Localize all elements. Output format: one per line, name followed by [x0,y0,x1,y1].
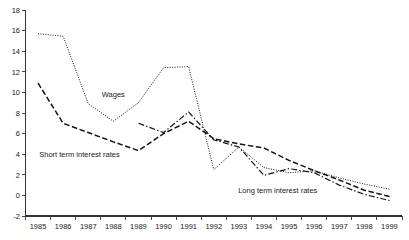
x-tick-label: 1986 [55,222,72,231]
x-tick-label: 1993 [231,222,248,231]
series-annotation: Wages [102,90,125,99]
x-tick-label: 1998 [356,222,373,231]
x-tick-label: 1989 [130,222,147,231]
x-tick-label: 1985 [30,222,47,231]
y-tick-label: -2 [13,212,20,221]
x-tick-label: 1992 [205,222,222,231]
y-tick-label: 16 [12,26,20,35]
y-tick-label: 0 [16,191,20,200]
x-tick-label: 1995 [281,222,298,231]
y-tick-label: 18 [12,6,20,15]
y-tick-label: 2 [16,171,20,180]
x-tick-label: 1988 [105,222,122,231]
line-chart: -2024681012141618 1985198619871988198919… [0,0,409,240]
y-tick-label: 4 [16,150,20,159]
y-tick-label: 10 [12,88,20,97]
x-tick-label: 1999 [381,222,398,231]
x-tick-label: 1991 [180,222,197,231]
x-tick-label: 1987 [80,222,97,231]
x-tick-label: 1996 [306,222,323,231]
y-tick-label: 8 [16,109,20,118]
y-tick-label: 14 [12,47,20,56]
x-tick-label: 1997 [331,222,348,231]
x-axis-tick-labels: 1985198619871988198919901991199219931994… [30,222,398,231]
y-tick-label: 12 [12,68,20,77]
series-annotation: Short term interest rates [39,150,120,159]
series-annotation: Long term interest rates [238,186,317,195]
y-tick-label: 6 [16,129,20,138]
chart-plot-area: -2024681012141618 1985198619871988198919… [0,0,409,240]
x-tick-label: 1990 [155,222,172,231]
x-tick-label: 1994 [256,222,273,231]
